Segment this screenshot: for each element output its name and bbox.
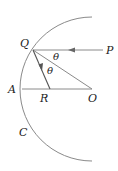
- arrowhead-incident-icon: [68, 48, 75, 53]
- label-A: A: [7, 83, 16, 96]
- label-C: C: [19, 126, 28, 139]
- label-O: O: [88, 92, 97, 105]
- label-R: R: [39, 92, 48, 105]
- label-Q: Q: [20, 37, 29, 50]
- mirror-diagram: Q P θ θ A R O C: [0, 0, 118, 171]
- label-theta-2: θ: [47, 65, 53, 76]
- label-theta-1: θ: [53, 51, 59, 62]
- label-P: P: [105, 44, 114, 57]
